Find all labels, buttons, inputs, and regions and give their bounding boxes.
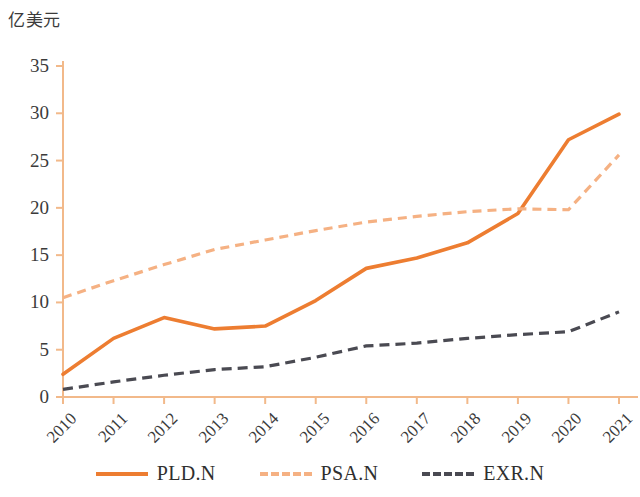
chart-legend: PLD.NPSA.NEXR.N <box>0 462 640 485</box>
y-axis-tick-label: 10 <box>0 291 49 313</box>
legend-swatch-solid-line-icon <box>96 472 148 476</box>
chart-axes <box>56 61 638 404</box>
y-axis-tick-label: 25 <box>0 150 49 172</box>
y-axis-tick-label: 35 <box>0 55 49 77</box>
y-axis-tick-label: 5 <box>0 339 49 361</box>
legend-label: PSA.N <box>321 462 379 485</box>
y-axis-tick-label: 20 <box>0 197 49 219</box>
legend-item-psa-n[interactable]: PSA.N <box>260 462 379 485</box>
y-axis-title: 亿美元 <box>8 6 61 31</box>
legend-swatch-dashed-line-icon <box>260 472 312 476</box>
series-line-pld-n <box>63 114 619 374</box>
legend-swatch-dashed-line-icon <box>422 472 474 476</box>
series-line-psa-n <box>63 155 619 298</box>
legend-item-pld-n[interactable]: PLD.N <box>96 462 216 485</box>
legend-label: PLD.N <box>157 462 216 485</box>
legend-label: EXR.N <box>483 462 544 485</box>
y-axis-tick-label: 0 <box>0 386 49 408</box>
y-axis-tick-label: 15 <box>0 244 49 266</box>
y-axis-tick-label: 30 <box>0 102 49 124</box>
legend-item-exr-n[interactable]: EXR.N <box>422 462 544 485</box>
chart-container: 亿美元 35302520151050 201020112012201320142… <box>0 0 640 497</box>
